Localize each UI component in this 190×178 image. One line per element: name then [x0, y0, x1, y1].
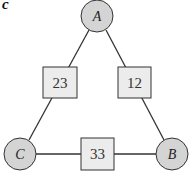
node-c: C: [4, 138, 36, 170]
weight-label-c-b: 33: [90, 146, 105, 162]
node-label-b: B: [168, 147, 177, 162]
weight-box-a-c: 23: [43, 67, 77, 98]
triangle-graph-diagram: c 23 12 33 A B C: [0, 0, 190, 178]
node-b: B: [156, 138, 188, 170]
weight-label-a-b: 12: [127, 75, 142, 91]
weight-box-a-b: 12: [118, 67, 151, 98]
weight-box-c-b: 33: [81, 138, 114, 170]
node-a: A: [81, 0, 113, 32]
panel-label: c: [2, 0, 9, 12]
node-label-a: A: [92, 9, 102, 24]
node-label-c: C: [15, 147, 25, 162]
weight-label-a-c: 23: [53, 75, 68, 91]
